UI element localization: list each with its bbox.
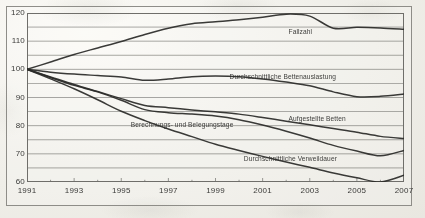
series-label-5: Durchschnittliche Verweildauer: [244, 155, 337, 162]
y-axis-tick-labels: 60708090100110120: [0, 13, 25, 182]
x-tick-label-1999: 1999: [206, 186, 225, 195]
x-tick-label-2001: 2001: [253, 186, 272, 195]
series-label-3: Aufgestellte Betten: [289, 115, 346, 122]
series-lines: [27, 14, 404, 182]
y-tick-label-60: 60: [16, 178, 25, 186]
gridlines: [27, 27, 404, 168]
x-tick-label-1997: 1997: [159, 186, 178, 195]
series-line-3: [27, 69, 404, 138]
x-tick-label-2005: 2005: [348, 186, 367, 195]
y-tick-label-80: 80: [16, 122, 25, 130]
chart-svg: [27, 13, 404, 182]
y-tick-label-110: 110: [12, 37, 25, 45]
plot-area: FallzahlDurchschnittliche Bettenauslastu…: [27, 13, 404, 182]
x-tick-label-1993: 1993: [65, 186, 84, 195]
y-tick-label-70: 70: [16, 150, 25, 158]
y-tick-label-90: 90: [16, 94, 25, 102]
x-tick-label-2003: 2003: [300, 186, 319, 195]
y-tick-label-120: 120: [11, 9, 25, 17]
y-tick-label-100: 100: [11, 65, 25, 73]
x-tick-label-1995: 1995: [112, 186, 131, 195]
series-label-4: Berechnungs- und Belegungstage: [131, 121, 234, 128]
x-tick-label-1991: 1991: [18, 186, 37, 195]
series-label-1: Fallzahl: [289, 28, 313, 35]
series-line-1: [27, 14, 404, 69]
x-axis-ticks: [27, 178, 404, 182]
scanned-figure-page: 60708090100110120 1991199319951997199920…: [0, 0, 425, 218]
series-label-2: Durchschnittliche Bettenauslastung: [230, 73, 336, 80]
x-tick-label-2007: 2007: [395, 186, 414, 195]
x-axis-tick-labels: 199119931995199719992001200320052007: [27, 186, 404, 202]
